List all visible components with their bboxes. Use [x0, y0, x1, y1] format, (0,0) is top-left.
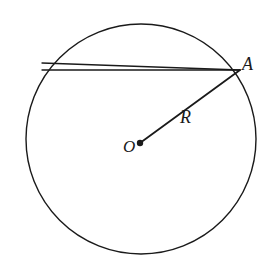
- radius-label: R: [180, 108, 191, 126]
- point-a-label: A: [242, 55, 253, 73]
- geometry-canvas: [0, 0, 271, 267]
- center-dot-icon: [137, 140, 143, 146]
- chord-upper-line: [42, 63, 240, 70]
- circle-outline: [26, 24, 256, 254]
- geometry-figure: A R O: [0, 0, 271, 267]
- center-point-label: O: [123, 138, 135, 155]
